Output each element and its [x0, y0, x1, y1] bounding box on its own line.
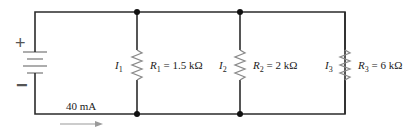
current-i3-label: I3 [325, 60, 333, 74]
total-current-label: 40 mA [66, 101, 96, 112]
positive-terminal-label: + [15, 34, 26, 52]
battery-icon [23, 40, 47, 75]
junction-node [237, 9, 243, 15]
resistor-r2-label: R2 = 2 kΩ [253, 60, 297, 74]
junction-node [134, 9, 140, 15]
negative-terminal-label: − [16, 75, 28, 95]
resistor-r2-icon [235, 50, 245, 80]
circuit-diagram [0, 0, 412, 129]
current-arrow-icon [60, 121, 103, 127]
current-i1-label: I1 [115, 60, 123, 74]
resistor-r1-label: R1 = 1.5 kΩ [150, 60, 203, 74]
current-i2-label: I2 [219, 60, 227, 74]
resistor-r1-icon [132, 50, 142, 80]
junction-node [237, 111, 243, 117]
resistor-r3-label: R3 = 6 kΩ [358, 60, 402, 74]
junction-node [134, 111, 140, 117]
